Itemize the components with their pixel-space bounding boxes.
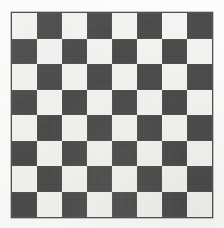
board-square (112, 13, 137, 39)
board-square (12, 64, 37, 90)
board-square (12, 141, 37, 167)
board-square (162, 115, 187, 141)
board-square (187, 13, 212, 39)
board-square (137, 166, 162, 192)
board-square (62, 115, 87, 141)
board-square (62, 90, 87, 116)
board-square (187, 90, 212, 116)
board-square (12, 13, 37, 39)
board-square (187, 192, 212, 218)
board-square (62, 166, 87, 192)
board-square (87, 64, 112, 90)
board-square (37, 192, 62, 218)
board-square (137, 192, 162, 218)
board-square (112, 39, 137, 65)
board-square (187, 115, 212, 141)
board-square (162, 64, 187, 90)
board-square (137, 39, 162, 65)
board-square (187, 64, 212, 90)
board-square (37, 39, 62, 65)
board-square (187, 39, 212, 65)
board-square (37, 141, 62, 167)
board-square (87, 90, 112, 116)
board-square (162, 192, 187, 218)
board-square (112, 141, 137, 167)
board-square (37, 90, 62, 116)
checkerboard-grid (12, 13, 212, 217)
board-square (62, 64, 87, 90)
board-square (37, 13, 62, 39)
board-square (62, 39, 87, 65)
board-square (187, 141, 212, 167)
board-square (137, 141, 162, 167)
board-square (62, 192, 87, 218)
board-square (12, 90, 37, 116)
board-square (12, 39, 37, 65)
board-square (62, 141, 87, 167)
board-square (162, 166, 187, 192)
board-square (87, 39, 112, 65)
board-square (162, 90, 187, 116)
board-square (137, 13, 162, 39)
board-square (137, 115, 162, 141)
board-square (112, 64, 137, 90)
checkerboard-scene (0, 0, 224, 228)
checkerboard-frame (11, 12, 213, 218)
board-square (12, 192, 37, 218)
board-square (12, 115, 37, 141)
board-square (137, 90, 162, 116)
board-square (87, 13, 112, 39)
board-square (112, 90, 137, 116)
board-square (87, 141, 112, 167)
board-square (162, 141, 187, 167)
board-square (37, 64, 62, 90)
board-square (162, 39, 187, 65)
board-square (12, 166, 37, 192)
board-square (112, 192, 137, 218)
board-square (137, 64, 162, 90)
board-square (87, 192, 112, 218)
board-square (62, 13, 87, 39)
board-square (37, 166, 62, 192)
board-square (37, 115, 62, 141)
board-square (112, 115, 137, 141)
board-square (112, 166, 137, 192)
board-square (187, 166, 212, 192)
board-square (162, 13, 187, 39)
board-square (87, 166, 112, 192)
board-square (87, 115, 112, 141)
